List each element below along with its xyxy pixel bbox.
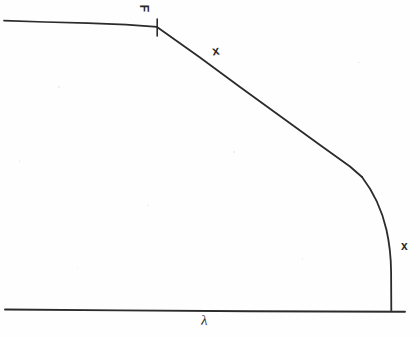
figure-drawing bbox=[0, 0, 420, 337]
plateau-segment bbox=[4, 21, 157, 27]
x-axis-label: λ bbox=[200, 314, 208, 329]
ink-strokes bbox=[4, 19, 405, 312]
break-point-label: F bbox=[138, 5, 150, 11]
baseline-axis bbox=[5, 310, 405, 312]
figure-canvas: F x x λ bbox=[0, 0, 420, 337]
descent-segment bbox=[157, 27, 362, 177]
knee-drop-segment bbox=[362, 177, 391, 311]
drop-annotation-label: x bbox=[401, 240, 408, 252]
